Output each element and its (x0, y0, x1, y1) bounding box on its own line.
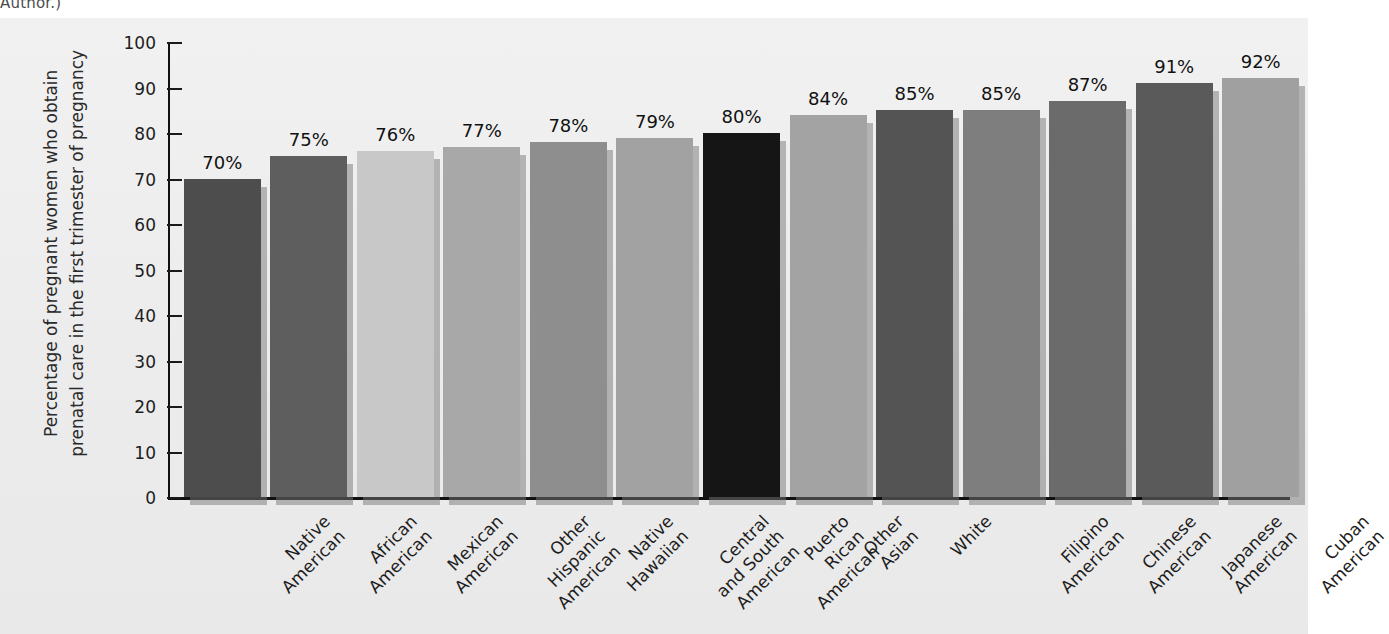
y-tick (167, 42, 182, 44)
bar-fill (270, 156, 347, 497)
y-tick-label: 50 (134, 261, 156, 281)
bar[interactable]: 84% (790, 115, 867, 497)
y-tick (167, 452, 182, 454)
bar-fill (616, 138, 693, 497)
bar-fill (1136, 83, 1213, 497)
bar-fill (703, 133, 780, 497)
y-axis-title: Percentage of pregnant women who obtainp… (14, 18, 114, 488)
bar[interactable]: 92% (1222, 78, 1299, 497)
bar-value-label: 91% (1154, 56, 1194, 77)
y-tick-label: 0 (145, 488, 156, 508)
bar-fill (530, 142, 607, 497)
y-tick (167, 88, 182, 90)
bar-fill (357, 151, 434, 497)
bar-fill (876, 110, 953, 497)
bar-value-label: 87% (1068, 74, 1108, 95)
bar[interactable]: 76% (357, 151, 434, 497)
y-tick-label: 100 (124, 33, 156, 53)
y-axis-title-line: Percentage of pregnant women who obtain (38, 50, 64, 457)
bar[interactable]: 87% (1049, 101, 1126, 497)
bar[interactable]: 79% (616, 138, 693, 497)
bar-value-label: 80% (721, 106, 761, 127)
bar-value-label: 77% (462, 120, 502, 141)
x-category-label: CubanAmerican (1301, 511, 1388, 598)
page-top-text-fragment: Author.) (0, 0, 61, 12)
y-tick (167, 406, 182, 408)
bar-fill (790, 115, 867, 497)
y-tick (167, 224, 182, 226)
y-tick (167, 361, 182, 363)
y-tick (167, 497, 182, 499)
bar[interactable]: 75% (270, 156, 347, 497)
figure-panel: Percentage of pregnant women who obtainp… (0, 18, 1308, 634)
bar-fill (443, 147, 520, 497)
y-tick (167, 179, 182, 181)
bar[interactable]: 80% (703, 133, 780, 497)
y-tick (167, 133, 182, 135)
y-tick-label: 80 (134, 124, 156, 144)
y-tick-label: 30 (134, 352, 156, 372)
bar[interactable]: 78% (530, 142, 607, 497)
bar-fill (963, 110, 1040, 497)
bar-value-label: 70% (202, 152, 242, 173)
bar-value-label: 76% (375, 124, 415, 145)
bar-value-label: 85% (895, 83, 935, 104)
bar-value-label: 78% (548, 115, 588, 136)
y-tick-label: 10 (134, 443, 156, 463)
y-tick-label: 60 (134, 215, 156, 235)
bar-fill (1222, 78, 1299, 497)
y-axis-title-line: prenatal care in the first trimester of … (64, 50, 90, 457)
bar[interactable]: 85% (876, 110, 953, 497)
y-tick-label: 20 (134, 397, 156, 417)
bar-value-label: 79% (635, 111, 675, 132)
y-tick (167, 315, 182, 317)
y-tick-label: 70 (134, 170, 156, 190)
bar-value-label: 75% (289, 129, 329, 150)
bar-value-label: 85% (981, 83, 1021, 104)
y-tick-label: 90 (134, 79, 156, 99)
plot-area: 0102030405060708090100 70%75%76%77%78%79… (168, 42, 1293, 498)
y-tick (167, 270, 182, 272)
bar-value-label: 92% (1241, 51, 1281, 72)
bar[interactable]: 70% (184, 179, 261, 498)
bar-fill (1049, 101, 1126, 497)
bar[interactable]: 85% (963, 110, 1040, 497)
bar-value-label: 84% (808, 88, 848, 109)
bar[interactable]: 91% (1136, 83, 1213, 497)
bar-fill (184, 179, 261, 498)
bar[interactable]: 77% (443, 147, 520, 497)
y-tick-label: 40 (134, 306, 156, 326)
